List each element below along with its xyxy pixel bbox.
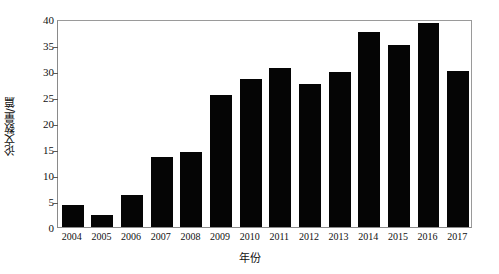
- y-tick-label: 30: [24, 66, 54, 78]
- x-tick-label: 2011: [269, 231, 289, 242]
- x-tick-label: 2005: [91, 231, 111, 242]
- bar-series: [58, 21, 471, 227]
- x-tick-label: 2013: [329, 231, 349, 242]
- x-tick-label: 2016: [418, 231, 438, 242]
- y-tick-mark: [53, 73, 58, 74]
- bar: [329, 72, 351, 227]
- y-tick-mark: [53, 177, 58, 178]
- bar: [210, 95, 232, 227]
- x-tick-label: 2006: [121, 231, 141, 242]
- y-tick-mark: [53, 125, 58, 126]
- x-tick-label: 2012: [299, 231, 319, 242]
- bar: [447, 71, 469, 227]
- bar-chart-figure: 论文数量/篇 0510152025303540 2004200520062007…: [0, 0, 499, 274]
- bar: [121, 195, 143, 227]
- bar: [388, 45, 410, 227]
- y-tick-mark: [53, 203, 58, 204]
- y-tick-label: 40: [24, 14, 54, 26]
- bar: [180, 152, 202, 227]
- y-tick-label: 0: [24, 222, 54, 234]
- x-axis-tick-labels: 2004200520062007200820092010201120122013…: [57, 231, 472, 249]
- x-axis-title: 年份: [0, 249, 499, 265]
- x-tick-label: 2007: [151, 231, 171, 242]
- bar: [269, 68, 291, 227]
- x-tick-label: 2014: [358, 231, 378, 242]
- y-axis-title: 论文数量/篇: [5, 72, 21, 182]
- bar: [299, 84, 321, 227]
- bar: [151, 157, 173, 227]
- bar: [240, 79, 262, 227]
- bar: [91, 215, 113, 227]
- y-tick-label: 35: [24, 40, 54, 52]
- x-tick-label: 2008: [180, 231, 200, 242]
- bar: [358, 32, 380, 227]
- x-tick-label: 2015: [388, 231, 408, 242]
- y-tick-mark: [53, 47, 58, 48]
- x-tick-label: 2017: [447, 231, 467, 242]
- y-tick-label: 5: [24, 196, 54, 208]
- y-tick-mark: [53, 99, 58, 100]
- y-tick-label: 15: [24, 144, 54, 156]
- y-tick-label: 10: [24, 170, 54, 182]
- bar: [418, 23, 440, 227]
- y-tick-label: 25: [24, 92, 54, 104]
- y-tick-label: 20: [24, 118, 54, 130]
- y-tick-mark: [53, 151, 58, 152]
- x-tick-label: 2004: [62, 231, 82, 242]
- bar: [62, 205, 84, 227]
- plot-area: [57, 20, 472, 228]
- y-axis-tick-labels: 0510152025303540: [22, 0, 54, 274]
- x-tick-label: 2009: [210, 231, 230, 242]
- x-tick-label: 2010: [240, 231, 260, 242]
